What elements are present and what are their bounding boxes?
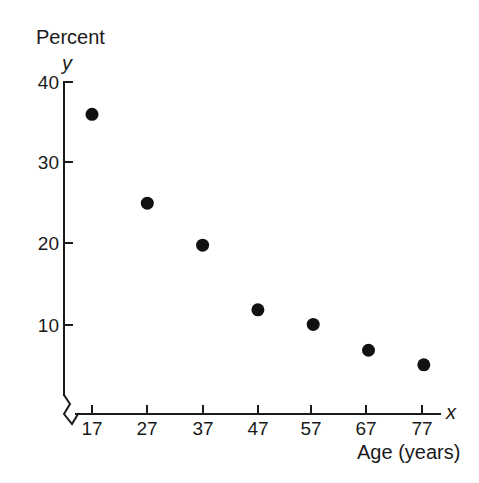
data-point bbox=[417, 358, 430, 371]
data-point bbox=[86, 108, 99, 121]
x-tick-label-57: 57 bbox=[300, 418, 321, 439]
x-tick-label-67: 67 bbox=[355, 418, 376, 439]
chart-page: 40 30 20 10 17 27 37 47 57 67 77 y x Per… bbox=[0, 0, 479, 483]
x-tick-label-17: 17 bbox=[81, 418, 102, 439]
x-axis-title: Age (years) bbox=[357, 441, 460, 463]
y-tick-label-40: 40 bbox=[38, 72, 59, 93]
x-axis-symbol: x bbox=[445, 401, 457, 423]
data-point bbox=[362, 344, 375, 357]
x-tick-label-37: 37 bbox=[192, 418, 213, 439]
axis-break-icon bbox=[64, 395, 78, 424]
scatter-plot: 40 30 20 10 17 27 37 47 57 67 77 y x Per… bbox=[0, 0, 479, 483]
x-tick-label-77: 77 bbox=[411, 418, 432, 439]
x-tick-label-27: 27 bbox=[136, 418, 157, 439]
data-point bbox=[307, 318, 320, 331]
y-axis-title: Percent bbox=[36, 26, 105, 48]
data-point bbox=[141, 197, 154, 210]
x-tick-label-47: 47 bbox=[247, 418, 268, 439]
y-tick-label-30: 30 bbox=[38, 152, 59, 173]
y-axis-symbol: y bbox=[60, 52, 73, 74]
data-point bbox=[196, 239, 209, 252]
y-tick-label-20: 20 bbox=[38, 233, 59, 254]
data-point bbox=[251, 303, 264, 316]
y-tick-label-10: 10 bbox=[38, 315, 59, 336]
